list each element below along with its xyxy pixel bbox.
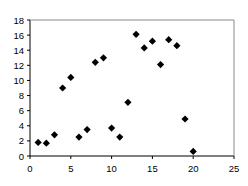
diamond-marker (100, 54, 107, 61)
y-axis-ticks: 024681012141618 (13, 15, 30, 162)
y-tick-label: 2 (19, 135, 24, 146)
x-tick-label: 15 (147, 163, 158, 174)
y-tick-label: 8 (19, 90, 24, 101)
diamond-marker (116, 134, 123, 141)
diamond-marker (59, 84, 66, 91)
diamond-marker (108, 124, 115, 131)
diamond-marker (67, 74, 74, 81)
y-tick-label: 4 (19, 120, 24, 131)
y-tick-label: 16 (13, 30, 24, 41)
diamond-marker (149, 38, 156, 45)
diamond-marker (92, 59, 99, 66)
y-tick-label: 10 (13, 75, 24, 86)
y-tick-label: 0 (19, 151, 24, 162)
data-points (35, 31, 197, 155)
y-tick-label: 6 (19, 105, 24, 116)
diamond-marker (141, 44, 148, 51)
diamond-marker (181, 115, 188, 122)
diamond-marker (132, 31, 139, 38)
diamond-marker (84, 126, 91, 133)
diamond-marker (51, 131, 58, 138)
diamond-marker (173, 42, 180, 49)
x-tick-label: 5 (68, 163, 73, 174)
diamond-marker (165, 36, 172, 43)
x-tick-label: 0 (27, 163, 32, 174)
diamond-marker (124, 99, 131, 106)
diamond-marker (157, 61, 164, 68)
y-tick-label: 18 (13, 15, 24, 26)
y-tick-label: 12 (13, 60, 24, 71)
diamond-marker (43, 140, 50, 147)
x-axis-ticks: 0510152025 (27, 156, 239, 174)
y-tick-label: 14 (13, 45, 24, 56)
diamond-marker (35, 139, 42, 146)
x-tick-label: 20 (188, 163, 199, 174)
x-tick-label: 10 (106, 163, 117, 174)
diamond-marker (75, 134, 82, 141)
x-tick-label: 25 (229, 163, 240, 174)
scatter-chart: 024681012141618 0510152025 (0, 0, 248, 186)
diamond-marker (190, 148, 197, 155)
